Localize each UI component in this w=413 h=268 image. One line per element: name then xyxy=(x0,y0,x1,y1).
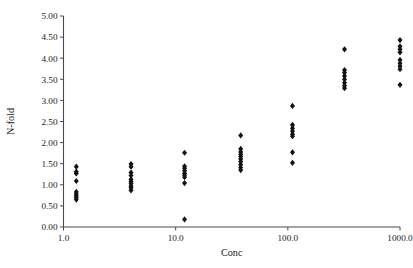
y-tick-label: 3.00 xyxy=(41,96,57,106)
y-tick-label: 2.50 xyxy=(41,117,57,127)
y-tick-label: 0.50 xyxy=(41,201,57,211)
y-tick-label: 1.00 xyxy=(41,180,57,190)
x-tick-label: 100.0 xyxy=(277,233,298,243)
y-tick-label: 1.50 xyxy=(41,159,57,169)
y-tick-label: 2.00 xyxy=(41,138,57,148)
data-point-marker xyxy=(182,180,187,186)
y-tick-label: 5.00 xyxy=(41,11,57,21)
data-point-marker xyxy=(238,132,243,138)
y-axis-ticks: 0.000.501.001.502.002.503.003.504.004.50… xyxy=(41,11,63,232)
x-tick-label: 1000.0 xyxy=(387,233,413,243)
data-point-marker xyxy=(290,103,295,109)
y-tick-label: 3.50 xyxy=(41,75,57,85)
y-axis-title: N-fold xyxy=(5,108,16,135)
data-point-marker xyxy=(182,216,187,222)
data-points-group xyxy=(74,37,403,223)
plot-canvas: 0.000.501.001.502.002.503.003.504.004.50… xyxy=(0,0,413,268)
scatter-chart-figure: 0.000.501.001.502.002.503.003.504.004.50… xyxy=(0,0,413,268)
x-axis-title: Conc xyxy=(221,247,243,258)
x-tick-label: 10.0 xyxy=(168,233,184,243)
data-point-marker xyxy=(290,149,295,155)
x-axis-ticks: 1.010.0100.01000.0 xyxy=(58,227,413,243)
data-point-marker xyxy=(290,160,295,166)
data-point-marker xyxy=(342,46,347,52)
data-point-marker xyxy=(398,37,403,43)
x-tick-label: 1.0 xyxy=(58,233,70,243)
data-point-marker xyxy=(398,82,403,88)
y-tick-label: 4.00 xyxy=(41,54,57,64)
data-point-marker xyxy=(74,178,79,184)
y-tick-label: 4.50 xyxy=(41,32,57,42)
y-tick-label: 0.00 xyxy=(41,222,57,232)
data-point-marker xyxy=(182,150,187,156)
